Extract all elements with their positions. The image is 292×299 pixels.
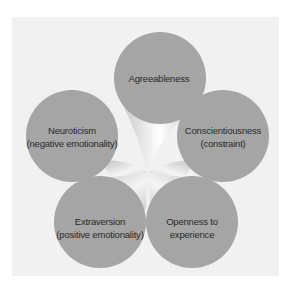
node-line1: Extraversion xyxy=(56,215,143,228)
node-line1: Agreeableness xyxy=(129,72,190,85)
node-line1: Conscientiousness xyxy=(185,124,261,137)
node-extraversion: Extraversion (positive emotionality) xyxy=(56,215,143,241)
node-line2: (positive emotionality) xyxy=(56,228,143,241)
node-openness: Openness to experience xyxy=(166,215,218,241)
node-line2: experience xyxy=(166,228,218,241)
node-line2: (negative emotionality) xyxy=(27,137,118,150)
node-agreeableness: Agreeableness xyxy=(129,72,190,85)
node-neuroticism: Neuroticism (negative emotionality) xyxy=(27,124,118,150)
node-conscientiousness: Conscientiousness (constraint) xyxy=(185,124,261,150)
node-line1: Neuroticism xyxy=(27,124,118,137)
node-line2: (constraint) xyxy=(185,137,261,150)
node-line1: Openness to xyxy=(166,215,218,228)
